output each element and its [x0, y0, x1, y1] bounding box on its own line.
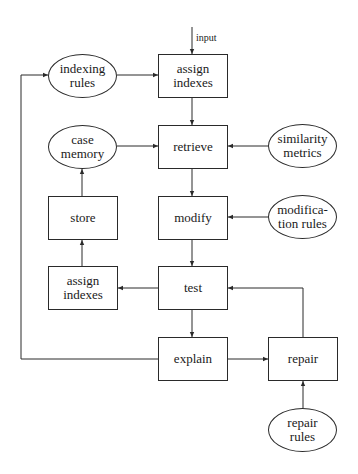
node-repair-rules: repair rules [268, 408, 337, 452]
node-modify: modify [158, 196, 228, 240]
node-label: repair rules [287, 416, 317, 444]
input-label: input [196, 32, 217, 43]
node-label: test [184, 281, 202, 295]
node-label: indexing rules [60, 62, 106, 90]
node-label: explain [174, 352, 212, 366]
figure-caption [60, 466, 300, 474]
node-test: test [158, 266, 228, 310]
node-repair: repair [268, 337, 338, 381]
node-modification-rules: modifica- tion rules [268, 195, 337, 239]
node-label: retrieve [173, 140, 213, 154]
node-label: modify [174, 211, 212, 225]
edge-repair-test [228, 288, 303, 337]
node-store: store [48, 196, 118, 240]
node-indexing-rules: indexing rules [48, 54, 117, 98]
node-label: assign indexes [173, 62, 213, 90]
node-label: modifica- tion rules [277, 203, 328, 231]
node-label: case memory [61, 133, 104, 161]
node-similarity-metrics: similarity metrics [268, 124, 337, 168]
node-assign-indexes-top: assign indexes [158, 54, 228, 98]
node-label: repair [288, 352, 318, 366]
node-label: similarity metrics [278, 132, 328, 160]
node-explain: explain [158, 337, 228, 381]
node-label: store [70, 211, 95, 225]
node-retrieve: retrieve [158, 125, 228, 169]
node-case-memory: case memory [48, 125, 117, 169]
node-label: assign indexes [63, 274, 103, 302]
node-assign-indexes-bottom: assign indexes [48, 266, 118, 310]
